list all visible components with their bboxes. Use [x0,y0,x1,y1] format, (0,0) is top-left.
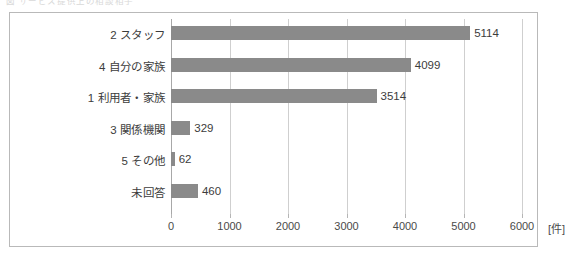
chart-bar [171,152,175,166]
x-tick-label: 6000 [510,220,534,232]
x-tick-label: 0 [168,220,174,232]
x-tick-mark [230,214,231,218]
x-tick-mark [405,214,406,218]
bar-value-label: 460 [202,184,221,198]
bar-value-label: 3514 [381,89,407,103]
category-label: 未回答 [131,184,165,200]
x-tick-mark [522,214,523,218]
figure-caption-text: 図 サービス提供上の相談相手 [6,0,134,6]
chart-bar-row: 未回答460 [10,183,539,199]
chart-bar [171,26,470,40]
chart-bar-row: 5 その他62 [10,151,539,167]
x-axis-unit-label: [件] [548,220,565,236]
bar-value-label: 5114 [474,26,499,40]
figure-caption-strip: 図 サービス提供上の相談相手 [0,0,550,9]
bar-value-label: 4099 [415,58,441,72]
chart-plot-area: 0100020003000400050006000[件]2 スタッフ51144 … [10,13,539,248]
chart-bar-row: 1 利用者・家族3514 [10,88,539,104]
category-label: 4 自分の家族 [99,58,165,74]
bar-value-label: 329 [194,121,213,135]
chart-bar-row: 2 スタッフ5114 [10,25,539,41]
chart-bar-row: 4 自分の家族4099 [10,57,539,73]
x-tick-label: 2000 [276,220,300,232]
category-label: 1 利用者・家族 [88,89,165,105]
x-tick-mark [347,214,348,218]
category-label: 5 その他 [121,152,165,168]
chart-bar-row: 3 関係機関329 [10,120,539,136]
x-tick-label: 5000 [451,220,475,232]
category-label: 3 関係機関 [110,121,165,137]
chart-bar [171,184,198,198]
x-tick-label: 4000 [393,220,417,232]
chart-bar [171,89,377,103]
chart-bar [171,58,411,72]
x-tick-mark [464,214,465,218]
x-tick-label: 1000 [217,220,241,232]
x-tick-label: 3000 [334,220,358,232]
x-tick-mark [171,214,172,218]
x-tick-mark [288,214,289,218]
category-label: 2 スタッフ [110,26,165,42]
chart-figure-frame: 0100020003000400050006000[件]2 スタッフ51144 … [9,12,538,247]
chart-bar [171,121,190,135]
bar-value-label: 62 [179,152,192,166]
